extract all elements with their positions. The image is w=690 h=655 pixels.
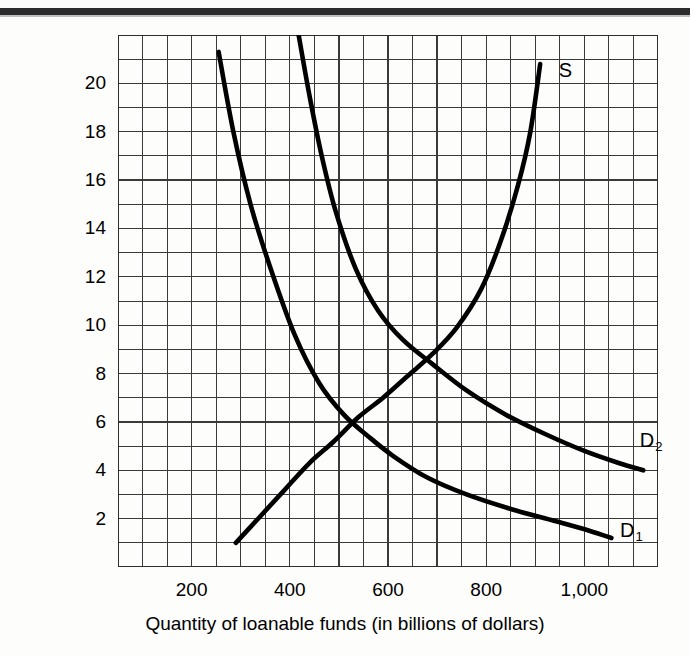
- y-tick-label: 16: [56, 170, 106, 189]
- page-top-rule: [0, 8, 690, 15]
- curve-label-base: D: [640, 429, 654, 451]
- y-tick-label: 6: [56, 412, 106, 431]
- curve-label-d2: D2: [640, 430, 662, 453]
- curve-label-subscript: 2: [655, 439, 662, 454]
- y-tick-label: 8: [56, 364, 106, 383]
- figure-loanable-funds-chart: Interest rate (percent) 2468101214161820…: [0, 0, 690, 655]
- y-tick-label: 14: [56, 218, 106, 237]
- y-tick-label: 2: [56, 509, 106, 528]
- x-tick-label: 200: [137, 580, 247, 599]
- curve-d2: [299, 35, 644, 470]
- x-tick-label: 800: [431, 580, 541, 599]
- y-tick-label: 20: [56, 73, 106, 92]
- curve-label-subscript: 1: [636, 529, 643, 544]
- plot-area: [118, 35, 658, 567]
- y-tick-label: 12: [56, 267, 106, 286]
- page-top-rule-shadow: [0, 15, 690, 17]
- y-tick-label: 10: [56, 315, 106, 334]
- x-tick-label: 600: [333, 580, 443, 599]
- curve-label-base: D: [620, 519, 634, 541]
- curve-label-d1: D1: [620, 520, 642, 543]
- y-axis-title: Interest rate (percent): [0, 0, 1, 250]
- curve-label-s: S: [559, 60, 572, 80]
- x-tick-label: 1,000: [529, 580, 639, 599]
- y-tick-label: 4: [56, 460, 106, 479]
- curve-d1: [219, 52, 612, 538]
- x-axis-title: Quantity of loanable funds (in billions …: [0, 613, 690, 635]
- y-axis-title-text: Interest rate (percent): [0, 0, 1, 250]
- y-tick-label: 18: [56, 122, 106, 141]
- x-tick-label: 400: [235, 580, 345, 599]
- curve-lines: [118, 35, 658, 567]
